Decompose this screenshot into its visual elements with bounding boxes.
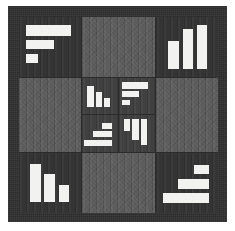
panel-texture	[19, 78, 81, 152]
bar	[44, 174, 55, 202]
bar	[178, 179, 209, 189]
outer-3x3-grid	[19, 17, 216, 211]
cell-center-top-left	[82, 78, 118, 114]
bar	[26, 54, 38, 64]
cell-center-bottom-right	[119, 115, 155, 151]
bar	[168, 41, 179, 69]
bar	[26, 40, 54, 50]
panel-center-recursive	[82, 78, 155, 152]
bar	[122, 91, 139, 97]
bars-vertical-descending	[82, 78, 118, 114]
panel-grain	[82, 17, 155, 77]
bar	[104, 98, 110, 107]
bar	[59, 185, 69, 202]
panel-grain	[156, 78, 218, 152]
bar	[122, 100, 130, 106]
panel-top-right	[156, 17, 218, 77]
bar	[102, 123, 112, 129]
bar	[163, 193, 209, 203]
bars-vertical-descending	[19, 153, 81, 213]
panel-texture	[156, 78, 218, 152]
panel-texture	[82, 153, 155, 213]
bar	[26, 25, 71, 35]
bar	[141, 119, 147, 145]
panel-texture	[82, 17, 155, 77]
bar	[183, 29, 194, 69]
panel-top-left	[19, 17, 81, 77]
bars-horizontal-ascending	[156, 153, 218, 213]
cell-center-top-right	[119, 78, 155, 114]
bars-vertical-ascending	[119, 115, 155, 151]
panel-top-center	[82, 17, 155, 77]
panel-middle-left	[19, 78, 81, 152]
bar	[197, 25, 208, 69]
panel-grain	[19, 78, 81, 152]
bar	[122, 82, 149, 88]
bar	[93, 131, 112, 137]
panel-grain	[82, 153, 155, 213]
bar	[194, 165, 209, 175]
bar	[30, 164, 41, 202]
bar	[87, 86, 93, 107]
bars-vertical-ascending	[156, 17, 218, 77]
panel-bottom-center	[82, 153, 155, 213]
bars-horizontal-descending	[119, 78, 155, 114]
bar	[96, 92, 102, 107]
inner-2x2-grid	[82, 78, 155, 152]
figure-border-frame	[8, 6, 227, 222]
bars-horizontal-ascending	[82, 115, 118, 151]
bars-horizontal-descending	[19, 17, 81, 77]
panel-bottom-right	[156, 153, 218, 213]
panel-bottom-left	[19, 153, 81, 213]
figure-canvas	[0, 0, 235, 231]
panel-middle-right	[156, 78, 218, 152]
bar	[132, 119, 138, 140]
cell-center-bottom-left	[82, 115, 118, 151]
bar	[124, 119, 130, 131]
bar	[84, 140, 112, 146]
